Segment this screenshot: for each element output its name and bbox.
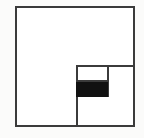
nested-squares-diagram [0,0,144,138]
figure-container [0,0,144,138]
shaded-rectangle [77,82,108,97]
